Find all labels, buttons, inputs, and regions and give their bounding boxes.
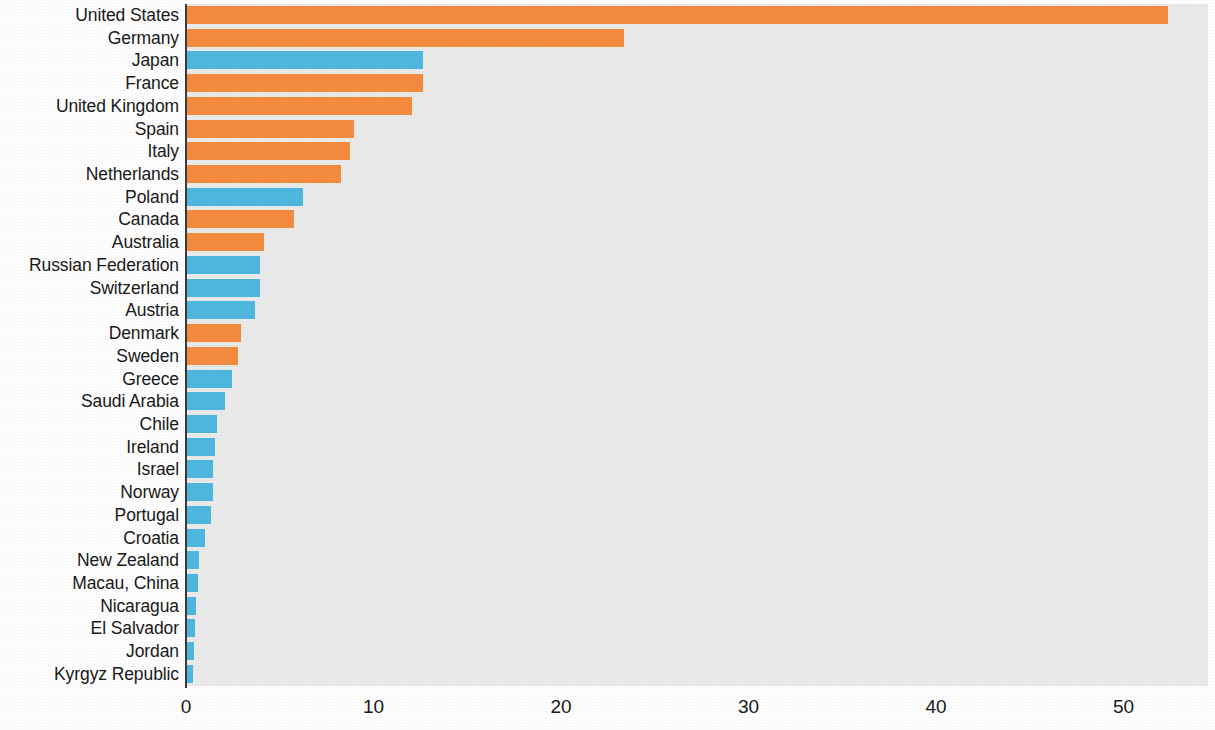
bar-track [187,301,255,319]
bar-row: France [0,72,1215,95]
bar-track [187,347,238,365]
bar-row: Germany [0,27,1215,50]
bar [187,74,423,92]
bar-track [187,165,341,183]
bar-row: Israel [0,458,1215,481]
bar-row: Norway [0,481,1215,504]
bar [187,256,260,274]
category-label: Sweden [0,345,179,368]
category-label: Israel [0,458,179,481]
bar-track [187,392,225,410]
category-label: Jordan [0,640,179,663]
category-label: Japan [0,49,179,72]
bar-row: Kyrgyz Republic [0,663,1215,686]
bar-row: Portugal [0,504,1215,527]
bar-row: Macau, China [0,572,1215,595]
bar-row: New Zealand [0,549,1215,572]
category-label: Russian Federation [0,254,179,277]
bar-track [187,642,194,660]
bar [187,120,354,138]
x-tick-label: 30 [738,696,759,718]
category-label: Macau, China [0,572,179,595]
bar-row: Australia [0,231,1215,254]
bar [187,97,412,115]
bar [187,188,303,206]
category-label: Switzerland [0,277,179,300]
bar-track [187,188,303,206]
bar-track [187,6,1168,24]
bar-track [187,210,294,228]
category-label: United States [0,4,179,27]
bar-rows: United StatesGermanyJapanFranceUnited Ki… [0,4,1215,686]
bar-track [187,438,215,456]
category-label: Chile [0,413,179,436]
category-label: France [0,72,179,95]
bar [187,29,624,47]
category-label: Kyrgyz Republic [0,663,179,686]
bar-row: United Kingdom [0,95,1215,118]
category-label: New Zealand [0,549,179,572]
x-tick-label: 40 [926,696,947,718]
category-label: El Salvador [0,617,179,640]
bar-row: Canada [0,208,1215,231]
category-label: Ireland [0,436,179,459]
bar-track [187,256,260,274]
bar-row: Denmark [0,322,1215,345]
category-label: Croatia [0,527,179,550]
category-label: Saudi Arabia [0,390,179,413]
bar [187,483,213,501]
bar [187,642,194,660]
bar [187,233,264,251]
bar-track [187,233,264,251]
bar-row: Japan [0,49,1215,72]
bar [187,392,225,410]
bar-track [187,506,211,524]
category-label: Norway [0,481,179,504]
x-tick-label: 50 [1113,696,1134,718]
category-label: Austria [0,299,179,322]
bar [187,597,196,615]
bar-row: Saudi Arabia [0,390,1215,413]
bar [187,619,195,637]
bar-track [187,597,196,615]
bar [187,665,193,683]
bar [187,165,341,183]
bar [187,506,211,524]
bar-track [187,74,423,92]
bar-track [187,370,232,388]
category-label: Greece [0,368,179,391]
bar-track [187,324,241,342]
category-label: Denmark [0,322,179,345]
category-label: Nicaragua [0,595,179,618]
bar-track [187,460,213,478]
bar-row: United States [0,4,1215,27]
bar-row: Ireland [0,436,1215,459]
category-label: United Kingdom [0,95,179,118]
bar-track [187,29,624,47]
bar-track [187,574,198,592]
category-label: Australia [0,231,179,254]
bar-track [187,529,205,547]
bar [187,51,423,69]
x-tick-label: 0 [181,696,192,718]
category-label: Germany [0,27,179,50]
bar [187,347,238,365]
bar [187,551,199,569]
bar [187,574,198,592]
bar-track [187,51,423,69]
bar-track [187,97,412,115]
category-label: Portugal [0,504,179,527]
bar-track [187,415,217,433]
bar-row: Netherlands [0,163,1215,186]
x-tick-label: 20 [550,696,571,718]
bar-track [187,142,350,160]
bar [187,529,205,547]
category-label: Spain [0,118,179,141]
bar-row: Austria [0,299,1215,322]
category-label: Poland [0,186,179,209]
category-label: Canada [0,208,179,231]
bar-row: Chile [0,413,1215,436]
bar-row: Nicaragua [0,595,1215,618]
bar-row: Jordan [0,640,1215,663]
category-label: Netherlands [0,163,179,186]
